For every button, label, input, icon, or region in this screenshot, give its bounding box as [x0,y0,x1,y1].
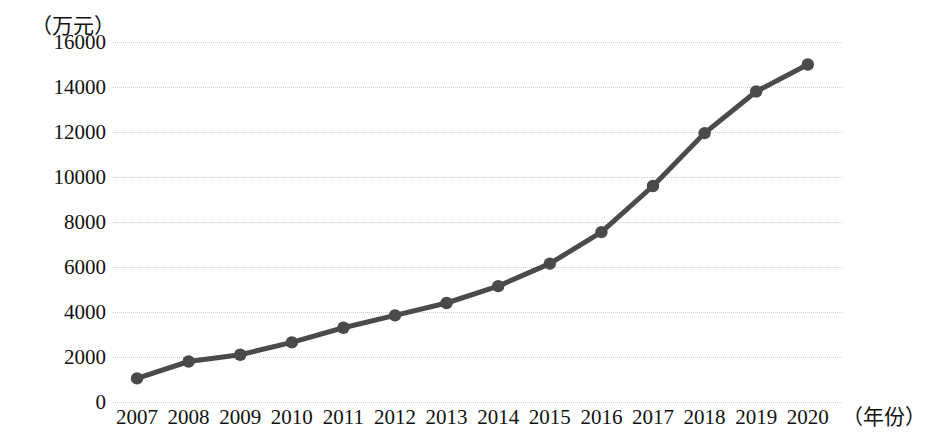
data-point [595,226,607,238]
x-axis-tick-labels: （年份） 20072008200920102011201220132014201… [0,404,930,440]
series-line [137,65,808,379]
y-axis-tick: 14000 [20,77,106,98]
x-axis-tick: 2007 [116,404,158,430]
data-point [286,336,298,348]
data-point [802,58,814,70]
x-axis-tick: 2016 [580,404,622,430]
x-axis-tick: 2017 [632,404,674,430]
data-point [750,85,762,97]
x-axis-tick: 2015 [529,404,571,430]
x-axis-tick: 2018 [684,404,726,430]
x-axis-tick: 2019 [735,404,777,430]
y-axis-tick-labels: 0200040006000800010000120001400016000 [20,0,106,443]
gridline [113,402,842,403]
x-axis-unit-label: （年份） [842,404,926,430]
x-axis-tick: 2011 [323,404,364,430]
y-axis-tick: 10000 [20,167,106,188]
data-point [337,322,349,334]
data-point [234,349,246,361]
data-point [647,180,659,192]
line-series [113,42,842,402]
y-axis-tick: 8000 [20,212,106,233]
data-point [544,257,556,269]
y-axis-tick: 12000 [20,122,106,143]
data-point [492,280,504,292]
x-axis-tick: 2013 [426,404,468,430]
y-axis-tick: 2000 [20,347,106,368]
data-point [698,127,710,139]
x-axis-tick: 2012 [374,404,416,430]
series-markers [131,58,814,384]
x-axis-tick: 2020 [787,404,829,430]
chart-page: （万元） 02000400060008000100001200014000160… [0,0,930,443]
data-point [389,309,401,321]
data-point [440,297,452,309]
x-axis-tick: 2014 [477,404,519,430]
data-point [182,355,194,367]
plot-area [113,42,842,402]
y-axis-tick: 4000 [20,302,106,323]
x-axis-tick: 2008 [168,404,210,430]
x-axis-tick: 2010 [271,404,313,430]
x-axis-tick: 2009 [219,404,261,430]
data-point [131,372,143,384]
y-axis-tick: 6000 [20,257,106,278]
y-axis-tick: 16000 [20,32,106,53]
